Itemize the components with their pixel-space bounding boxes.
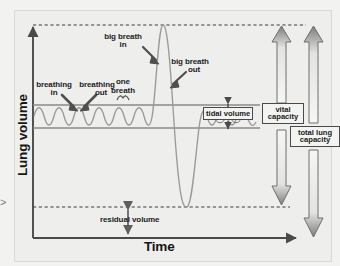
- label-one-breath-line2: breath: [105, 87, 141, 95]
- x-axis-title: Time: [144, 240, 174, 254]
- callout-vital-capacity: vital capacity: [262, 103, 304, 124]
- callout-tidal-volume: tidal volume: [203, 107, 253, 120]
- scan-edge-caret: >: [0, 196, 6, 208]
- label-big-breath-out-line2: out: [170, 66, 218, 74]
- label-one-breath-line1: one: [108, 78, 138, 86]
- figure-root: Lung volume Time breathing in breathing …: [0, 0, 340, 266]
- label-residual-volume: residual volume: [100, 216, 158, 224]
- label-big-breath-in-line2: in: [99, 41, 147, 49]
- diagram-canvas: [0, 0, 340, 266]
- callout-total-lung-capacity: total lung capacity: [290, 126, 340, 147]
- diagram-stage: Lung volume Time breathing in breathing …: [0, 0, 340, 266]
- label-breathing-in-line2: in: [31, 89, 77, 97]
- y-axis-title: Lung volume: [16, 94, 30, 176]
- callout-vital-capacity-line2: capacity: [265, 113, 301, 121]
- callout-total-lung-capacity-line2: capacity: [293, 136, 337, 144]
